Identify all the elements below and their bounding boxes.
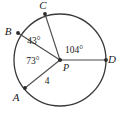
length-label-pa: 4 — [45, 76, 50, 86]
geometry-diagram: C B A D P 43° 104° 73° 4 — [0, 0, 126, 123]
angle-label-bpc: 43° — [27, 36, 41, 46]
angle-label-cpd: 104° — [65, 45, 83, 55]
angle-label-apb: 73° — [26, 56, 40, 66]
point-label-b: B — [5, 25, 12, 37]
center-label-p: P — [62, 62, 69, 73]
point-marker-c — [43, 12, 47, 16]
point-marker-b — [16, 31, 20, 35]
point-label-d: D — [107, 53, 116, 65]
point-marker-a — [23, 86, 27, 90]
point-marker-p — [58, 58, 62, 62]
circle-geometry-figure: C B A D P 43° 104° 73° 4 — [0, 0, 126, 123]
point-label-c: C — [39, 0, 47, 11]
point-label-a: A — [12, 91, 20, 103]
radius-segment-pc — [45, 14, 60, 60]
